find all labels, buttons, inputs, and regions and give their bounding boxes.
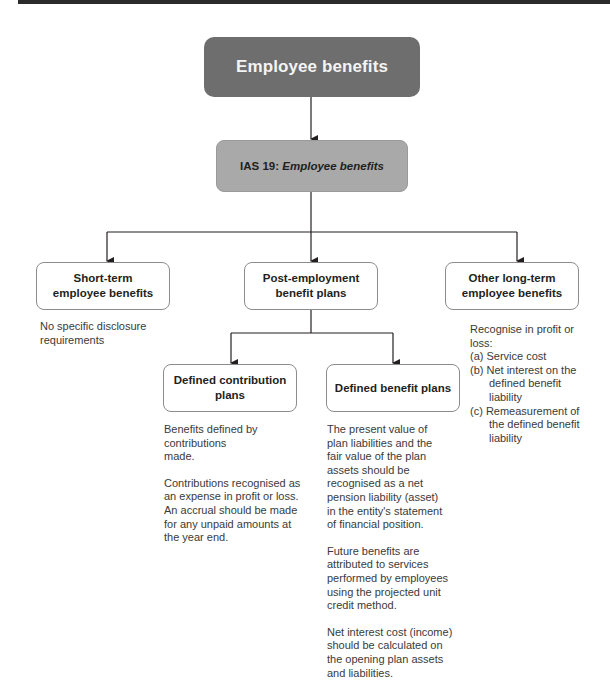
- description-text: Benefits defined by contributions made.: [164, 423, 259, 464]
- description-text: Contributions recognised as an expense i…: [164, 477, 304, 545]
- list-item: (c) Remeasurement of the defined benefit…: [470, 405, 594, 446]
- list-item: (b) Net interest on the defined benefit …: [470, 364, 577, 405]
- list-item: (a) Service cost: [470, 350, 590, 364]
- description-text: No specific disclosure requirements: [40, 320, 158, 347]
- defined-contribution-description: Benefits defined by contributions made. …: [164, 423, 304, 558]
- standard-title: Employee benefits: [282, 160, 384, 172]
- node-defined-benefit-plans: Defined benefit plans: [326, 364, 460, 412]
- standard-node-label: IAS 19: Employee benefits: [240, 160, 384, 172]
- short-term-description: No specific disclosure requirements: [40, 320, 158, 360]
- node-label: Other long-term employee benefits: [448, 271, 576, 301]
- description-text: The present value of plan liabilities an…: [327, 423, 449, 532]
- description-intro: Recognise in profit or loss:: [470, 323, 575, 350]
- standard-node-ias19: IAS 19: Employee benefits: [216, 140, 408, 192]
- node-label: Short-term employee benefits: [48, 271, 158, 301]
- description-list: (a) Service cost (b) Net interest on the…: [470, 350, 590, 445]
- root-node-employee-benefits: Employee benefits: [204, 37, 420, 97]
- node-label: Defined benefit plans: [335, 381, 451, 396]
- node-label: Defined contribution plans: [164, 373, 296, 403]
- description-text: Net interest cost (income) should be cal…: [327, 626, 457, 680]
- node-defined-contribution-plans: Defined contribution plans: [163, 364, 297, 412]
- root-node-label: Employee benefits: [236, 57, 388, 77]
- node-short-term-benefits: Short-term employee benefits: [36, 262, 170, 310]
- defined-benefit-description: The present value of plan liabilities an…: [327, 423, 467, 681]
- other-long-term-description: Recognise in profit or loss: (a) Service…: [470, 323, 590, 445]
- node-other-long-term-benefits: Other long-term employee benefits: [445, 262, 579, 310]
- node-post-employment-plans: Post-employment benefit plans: [244, 262, 378, 310]
- description-text: Future benefits are attributed to servic…: [327, 545, 467, 613]
- node-label: Post-employment benefit plans: [261, 271, 361, 301]
- standard-prefix: IAS 19:: [240, 160, 282, 172]
